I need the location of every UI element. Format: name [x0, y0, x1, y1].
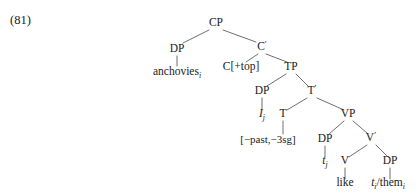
node-tbar: T′ — [308, 83, 317, 96]
branch-cp-dp — [183, 30, 209, 43]
syntax-tree-diagram: CP DP anchoviesi C′ C[+top] TP DP Ij T′ … — [0, 0, 419, 195]
terminal-like: like — [336, 176, 353, 188]
terminal-anchovies: anchoviesi — [153, 65, 201, 80]
node-c-head: C[+top] — [223, 60, 260, 73]
node-dp-subject: DP — [255, 84, 270, 96]
tree-branches — [177, 30, 390, 179]
node-t-features: [−past,−3sg] — [240, 133, 295, 145]
node-dp-vp-spec: DP — [318, 132, 333, 144]
terminal-anchovies-base: anchovies — [153, 65, 200, 77]
terminal-vp-trace-subscript: j — [325, 160, 328, 169]
terminal-subject-trace: Ij — [258, 107, 265, 122]
terminal-object-pronoun-subscript: i — [403, 182, 405, 191]
node-dp-topic: DP — [170, 42, 185, 54]
syntax-tree-figure: (81) — [0, 0, 419, 195]
branch-cp-cbar — [223, 30, 256, 42]
node-v-head: V — [341, 154, 350, 166]
node-dp-object: DP — [383, 154, 398, 166]
node-vbar-prime: ′ — [374, 130, 376, 140]
terminal-vp-trace: tj — [322, 154, 327, 169]
tree-node-labels: CP DP anchoviesi C′ C[+top] TP DP Ij T′ … — [153, 16, 405, 191]
node-cbar: C′ — [257, 39, 267, 52]
node-tp: TP — [284, 60, 297, 72]
node-t-head: T — [279, 107, 286, 119]
node-tbar-prime: ′ — [315, 83, 317, 93]
branch-tp-dp — [267, 74, 286, 86]
node-cbar-prime: ′ — [265, 39, 267, 49]
node-cp: CP — [209, 16, 223, 28]
terminal-object-pronoun: them — [380, 176, 403, 188]
node-vp: VP — [341, 107, 356, 119]
node-tbar-base: T — [308, 84, 315, 96]
branch-vbar-v — [349, 145, 367, 157]
branch-tp-tbar — [296, 74, 308, 86]
terminal-subject-trace-subscript: j — [262, 113, 265, 122]
node-vbar: V′ — [366, 130, 376, 143]
terminal-object-trace-them: ti/themi — [371, 176, 405, 191]
branch-tbar-t — [287, 98, 307, 110]
terminal-anchovies-subscript: i — [199, 71, 201, 80]
